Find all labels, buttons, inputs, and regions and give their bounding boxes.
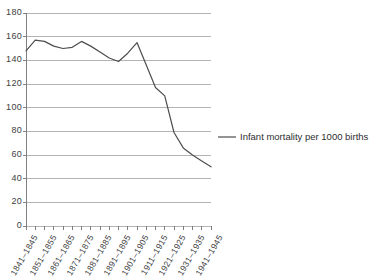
legend-entry-label: Infant mortality per 1000 births — [240, 131, 368, 142]
y-axis-tick-label: 140 — [0, 54, 22, 64]
y-axis-tick-label: 160 — [0, 31, 22, 41]
y-axis-tick-label: 100 — [0, 102, 22, 112]
y-axis-tick-label: 60 — [0, 149, 22, 159]
y-axis-tick-label: 0 — [0, 220, 22, 230]
y-axis-tick-label: 40 — [0, 173, 22, 183]
y-axis-tick-label: 180 — [0, 7, 22, 17]
y-axis-tick-label: 120 — [0, 78, 22, 88]
data-series-infant-mortality — [26, 40, 211, 167]
y-axis-tick-label: 20 — [0, 196, 22, 206]
y-axis-tick-label: 80 — [0, 125, 22, 135]
